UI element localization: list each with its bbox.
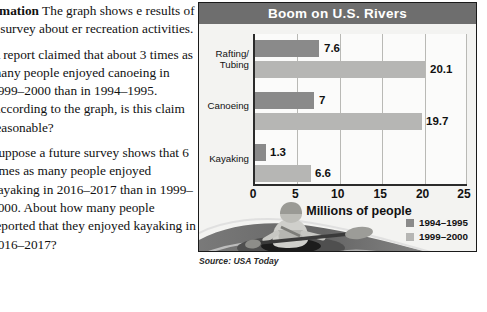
bar-canoeing-1999 <box>255 113 422 130</box>
bar-value-canoeing-1999: 19.7 <box>426 113 448 130</box>
x-axis-ticks: 0 5 10 15 20 25 <box>253 187 465 203</box>
gridline-20 <box>425 34 426 184</box>
xtick-10: 10 <box>331 187 344 201</box>
legend-item-1994-1995: 1994–1995 <box>406 217 468 228</box>
bar-value-rafting-1999: 20.1 <box>430 61 452 78</box>
xtick-5: 5 <box>292 187 299 201</box>
xtick-0: 0 <box>250 187 257 201</box>
gridline-25 <box>466 34 467 184</box>
lesson-lead-label: timation <box>0 3 39 18</box>
xtick-25: 25 <box>457 187 470 201</box>
chart-plot-wrapper: Rafting/ Tubing Canoeing Kayaking <box>199 24 477 252</box>
lesson-text-column: timation The graph shows e results of a … <box>0 0 196 261</box>
legend-item-1999-2000: 1999–2000 <box>406 231 468 242</box>
legend-label-1994: 1994–1995 <box>419 217 468 228</box>
chart-source-caption: Source: USA Today <box>199 256 279 266</box>
bar-kayaking-1999 <box>255 165 311 182</box>
chart-legend: 1994–1995 1999–2000 <box>406 217 468 245</box>
bar-value-rafting-1994: 7.6 <box>324 40 340 57</box>
chart-title: Boom on U.S. Rivers <box>199 3 476 24</box>
legend-label-1999: 1999–2000 <box>419 231 468 242</box>
x-axis-line <box>253 184 467 186</box>
bar-rafting-1994 <box>255 40 319 57</box>
bar-rafting-1999 <box>255 61 425 78</box>
chart-panel: Boom on U.S. Rivers Rafting/ Tubing Cano… <box>198 2 477 252</box>
x-axis-title: Millions of people <box>253 204 465 218</box>
bar-value-canoeing-1994: 7 <box>319 92 325 109</box>
legend-swatch-icon-1999 <box>406 233 414 241</box>
category-label-canoeing: Canoeing <box>201 100 249 111</box>
lesson-paragraph-question-2: Suppose a future survey shows that 6 tim… <box>0 144 196 254</box>
gridline-15 <box>382 34 383 184</box>
lesson-paragraph-question-1: A report claimed that about 3 times as m… <box>0 46 196 137</box>
xtick-15: 15 <box>374 187 387 201</box>
xtick-20: 20 <box>416 187 429 201</box>
chart-category-axis: Rafting/ Tubing Canoeing Kayaking <box>199 34 249 184</box>
bar-value-kayaking-1999: 6.6 <box>315 165 331 182</box>
category-label-kayaking: Kayaking <box>201 153 249 164</box>
bar-kayaking-1994 <box>255 144 266 161</box>
textbook-page: timation The graph shows e results of a … <box>0 0 487 312</box>
lesson-paragraph-intro: timation The graph shows e results of a … <box>0 0 196 39</box>
bar-canoeing-1994 <box>255 92 314 109</box>
chart-plot-area: 7.6 20.1 7 19.7 1.3 6.6 <box>253 34 467 184</box>
bar-value-kayaking-1994: 1.3 <box>270 144 286 161</box>
category-label-rafting: Rafting/ Tubing <box>201 48 249 70</box>
legend-swatch-icon-1994 <box>406 219 414 227</box>
